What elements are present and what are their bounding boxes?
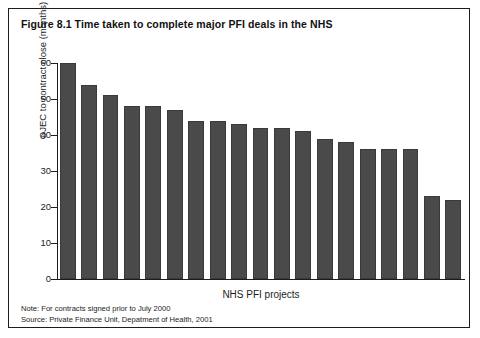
bar — [124, 106, 140, 279]
bar — [145, 106, 161, 279]
bar — [103, 95, 119, 279]
y-tick-label: 20 — [21, 201, 51, 212]
source-text: Source: Private Finance Unit, Depatment … — [21, 314, 451, 325]
bar — [253, 128, 269, 279]
note-text: Note: For contracts signed prior to July… — [21, 303, 451, 314]
bar — [60, 63, 76, 279]
figure-notes: Note: For contracts signed prior to July… — [21, 303, 451, 325]
bar — [424, 196, 440, 279]
y-tick-mark — [51, 279, 57, 280]
y-tick-label: 30 — [21, 165, 51, 176]
bar — [188, 121, 204, 279]
bar — [231, 124, 247, 279]
bar — [381, 149, 397, 279]
plot-area — [57, 63, 464, 279]
bar — [295, 131, 311, 279]
bar — [210, 121, 226, 279]
bar — [360, 149, 376, 279]
y-axis-title: OJEC to contract close (months) — [37, 0, 48, 166]
bar — [445, 200, 461, 279]
figure-title: Figure 8.1 Time taken to complete major … — [21, 18, 333, 30]
bar — [317, 139, 333, 279]
bar — [167, 110, 183, 279]
bar — [274, 128, 290, 279]
y-tick-label: 10 — [21, 237, 51, 248]
x-axis-line — [57, 279, 465, 280]
bar — [403, 149, 419, 279]
bar — [338, 142, 354, 279]
figure-container: Figure 8.1 Time taken to complete major … — [8, 8, 470, 328]
y-tick-label: 0 — [21, 273, 51, 284]
x-axis-title: NHS PFI projects — [57, 289, 465, 300]
bar — [81, 85, 97, 279]
